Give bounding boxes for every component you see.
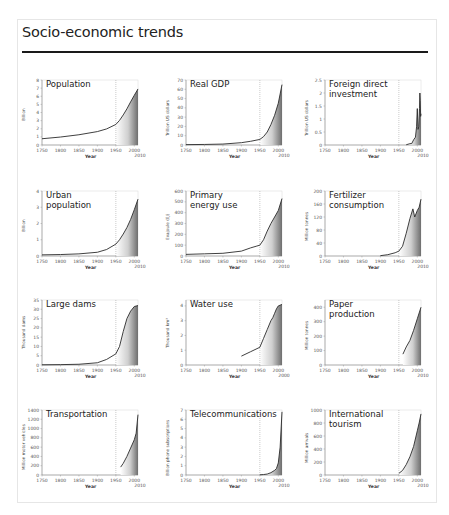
y-tick-label: 25 — [33, 316, 39, 321]
y-tick-label: 300 — [174, 221, 183, 226]
chart-title: Real GDP — [190, 79, 229, 89]
x-tick-label: 1850 — [217, 148, 229, 153]
x-tick-label: 1900 — [375, 148, 387, 153]
y-tick-label: 3 — [180, 445, 183, 450]
shaded-area — [116, 306, 138, 365]
x-tick-label: 1950 — [393, 368, 405, 373]
x-axis-label: Year — [85, 484, 96, 489]
chart-panel-transportation: 0200400600800100012001400175018001850190… — [14, 402, 144, 502]
y-axis-label: Billion — [21, 109, 26, 122]
x-tick-label: 1850 — [356, 259, 368, 264]
x-end-label: 2000 — [278, 373, 290, 378]
y-tick-label: 35 — [33, 298, 39, 303]
chart-title: Telecommunications — [190, 409, 277, 419]
x-tick-label: 1950 — [254, 478, 266, 483]
x-tick-label: 1950 — [254, 148, 266, 153]
y-tick-label: 800 — [30, 435, 39, 440]
chart-panel-paper-production: 0100200300400175018001850190019502000201… — [297, 292, 427, 392]
x-tick-label: 1800 — [199, 478, 211, 483]
x-axis-label: Year — [229, 154, 240, 159]
y-tick-label: 600 — [30, 445, 39, 450]
x-tick-label: 1800 — [55, 478, 67, 483]
y-axis-label: Trillion US dollars — [165, 100, 170, 136]
x-tick-label: 1900 — [375, 368, 387, 373]
x-tick-label: 1950 — [110, 478, 122, 483]
x-tick-label: 1850 — [217, 259, 229, 264]
x-tick-label: 1750 — [180, 478, 192, 483]
y-tick-label: 3 — [36, 205, 39, 210]
x-axis-label: Year — [85, 374, 96, 379]
x-tick-label: 2000 — [273, 368, 285, 373]
y-tick-label: 600 — [313, 434, 322, 439]
y-tick-label: 120 — [313, 215, 322, 220]
chart-title: Population — [46, 79, 91, 89]
y-tick-label: 800 — [313, 421, 322, 426]
chart-panel-real-gdp: 0102030405060701750180018501900195020002… — [158, 72, 288, 172]
chart-title: Primary energy use — [190, 190, 237, 210]
y-axis-label: Million tonnes — [304, 321, 309, 350]
x-tick-label: 1750 — [319, 478, 331, 483]
x-tick-label: 1800 — [199, 368, 211, 373]
y-tick-label: 40 — [316, 241, 322, 246]
shaded-area — [260, 199, 282, 256]
x-tick-label: 1950 — [393, 478, 405, 483]
chart-title: Urban population — [46, 190, 91, 210]
x-tick-label: 1850 — [73, 368, 85, 373]
chart-panel-large-dams: 0510152025303517501800185019001950200020… — [14, 292, 144, 392]
shaded-area — [116, 89, 138, 145]
y-axis-label: Thousand dams — [21, 315, 26, 348]
y-tick-label: 7 — [180, 408, 183, 413]
x-tick-label: 1750 — [36, 148, 48, 153]
x-tick-label: 2000 — [129, 259, 141, 264]
y-tick-label: 6 — [36, 94, 39, 99]
y-tick-label: 2 — [180, 333, 183, 338]
x-tick-label: 1950 — [254, 368, 266, 373]
y-tick-label: 40 — [177, 105, 183, 110]
chart-title: Fertilizer consumption — [329, 190, 384, 210]
x-tick-label: 1850 — [356, 148, 368, 153]
y-tick-label: 5 — [36, 353, 39, 358]
y-tick-label: 2 — [36, 126, 39, 131]
x-tick-label: 1950 — [110, 368, 122, 373]
chart-title: Foreign direct investment — [329, 79, 387, 99]
x-tick-label: 1900 — [236, 478, 248, 483]
x-end-label: 2010 — [278, 153, 290, 158]
shaded-area — [260, 304, 282, 365]
page-title: Socio-economic trends — [22, 24, 183, 40]
y-tick-label: 5 — [180, 426, 183, 431]
chart-panel-water-use: 012341750180018501900195020002000Water u… — [158, 292, 288, 392]
y-tick-label: 200 — [174, 232, 183, 237]
shaded-area — [399, 414, 421, 475]
chart-panel-telecommunications: 012345671750180018501900195020002010Tele… — [158, 402, 288, 502]
y-tick-label: 1 — [36, 134, 39, 139]
y-tick-label: 6 — [180, 417, 183, 422]
x-tick-label: 2000 — [129, 478, 141, 483]
y-tick-label: 300 — [313, 319, 322, 324]
x-end-label: 2010 — [417, 264, 429, 269]
x-end-label: 2010 — [417, 373, 429, 378]
x-tick-label: 1950 — [393, 259, 405, 264]
y-tick-label: 4 — [36, 110, 39, 115]
y-tick-label: 80 — [316, 228, 322, 233]
x-tick-label: 1850 — [73, 478, 85, 483]
y-tick-label: 1400 — [28, 408, 40, 413]
x-tick-label: 1750 — [319, 148, 331, 153]
y-tick-label: 2 — [36, 221, 39, 226]
chart-title: International tourism — [329, 409, 383, 429]
x-tick-label: 1750 — [319, 259, 331, 264]
y-tick-label: 3 — [36, 118, 39, 123]
chart-panel-fertilizer-consumption: 0408012016020017501800185019001950200020… — [297, 183, 427, 283]
x-tick-label: 1800 — [199, 148, 211, 153]
y-tick-label: 60 — [177, 87, 183, 92]
y-tick-label: 15 — [33, 335, 39, 340]
chart-panel-international-tourism: 0200400600800100017501800185019001950200… — [297, 402, 427, 502]
y-tick-label: 4 — [36, 189, 39, 194]
y-tick-label: 10 — [177, 133, 183, 138]
x-tick-label: 1850 — [217, 368, 229, 373]
x-axis-label: Year — [229, 484, 240, 489]
chart-title: Transportation — [46, 409, 107, 419]
y-tick-label: 7 — [36, 86, 39, 91]
x-tick-label: 1900 — [92, 368, 104, 373]
y-axis-label: Million arrivals — [304, 432, 309, 462]
chart-title: Water use — [190, 299, 233, 309]
